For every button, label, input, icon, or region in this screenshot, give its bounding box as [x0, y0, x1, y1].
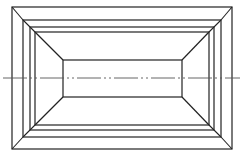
chamfer-line [23, 20, 30, 27]
second-frame [23, 20, 221, 137]
chamfer-line [12, 137, 23, 149]
technical-drawing [0, 0, 243, 157]
third-frame [30, 27, 214, 130]
chamfer-line [221, 137, 232, 149]
chamfer-line [12, 7, 23, 20]
frustum-edge [35, 32, 63, 60]
frustum-base [35, 32, 209, 125]
chamfer-line [221, 7, 232, 20]
chamfer-line [209, 125, 214, 130]
frustum-edge [182, 32, 209, 60]
chamfer-line [30, 27, 35, 32]
chamfer-line [214, 20, 221, 27]
frustum-view [35, 32, 209, 125]
frustum-top-face [63, 60, 182, 97]
frustum-edge [35, 97, 63, 125]
frustum-edge [182, 97, 209, 125]
chamfer-line [30, 125, 35, 130]
chamfer-line [23, 130, 30, 137]
chamfer-line [209, 27, 214, 32]
chamfer-line [214, 130, 221, 137]
